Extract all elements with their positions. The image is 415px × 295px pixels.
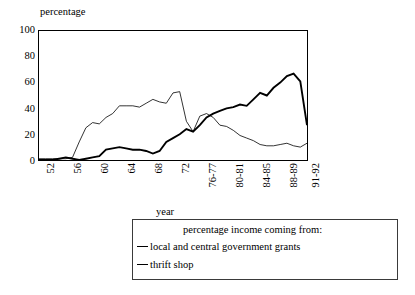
legend-item-government-grants: local and central government grants bbox=[137, 240, 300, 253]
y-tick-label: 40 bbox=[9, 104, 35, 114]
chart-container: percentage 100 80 60 40 20 0 52 56 60 64… bbox=[0, 0, 415, 295]
x-tick-label: 52 bbox=[45, 163, 56, 174]
y-axis-title: percentage bbox=[40, 6, 85, 18]
series-line-government-grants bbox=[39, 74, 307, 160]
legend-item-label: thrift shop bbox=[150, 258, 193, 271]
x-tick-label: 64 bbox=[126, 163, 137, 174]
x-axis-title: year bbox=[156, 206, 174, 218]
x-axis-tick-labels: 52 56 60 64 68 72 76-77 80-81 84-85 88-8… bbox=[38, 163, 310, 195]
series-line-thrift-shop bbox=[39, 92, 307, 159]
legend-line-swatch-thick bbox=[137, 246, 148, 248]
plot-lines bbox=[39, 31, 307, 160]
y-axis-tick-labels: 100 80 60 40 20 0 bbox=[6, 30, 35, 161]
x-tick-label: 88-89 bbox=[288, 163, 299, 188]
legend-item-thrift-shop: thrift shop bbox=[137, 258, 193, 271]
y-tick-label: 20 bbox=[9, 130, 35, 140]
legend-line-swatch-thin bbox=[137, 264, 148, 265]
x-tick-label: 76-77 bbox=[207, 163, 218, 188]
legend: percentage income coming from: local and… bbox=[132, 219, 398, 280]
x-tick-label: 68 bbox=[153, 163, 164, 174]
x-tick-label: 91-92 bbox=[310, 163, 321, 188]
y-tick-label: 80 bbox=[9, 51, 35, 61]
x-tick-label: 84-85 bbox=[261, 163, 272, 188]
legend-title: percentage income coming from: bbox=[183, 223, 322, 236]
y-tick-label: 60 bbox=[9, 77, 35, 87]
x-tick-label: 56 bbox=[72, 163, 83, 174]
y-tick-label: 100 bbox=[9, 25, 35, 35]
legend-item-label: local and central government grants bbox=[150, 240, 300, 253]
x-tick-label: 60 bbox=[99, 163, 110, 174]
plot-area bbox=[38, 30, 308, 161]
y-tick-label: 0 bbox=[9, 156, 35, 166]
x-tick-label: 72 bbox=[180, 163, 191, 174]
x-tick-label: 80-81 bbox=[234, 163, 245, 188]
